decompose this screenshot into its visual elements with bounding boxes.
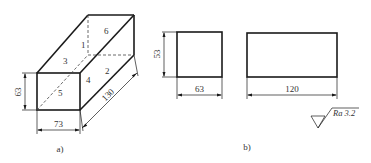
face-label-4: 4 [86,75,91,85]
figure-b-side-view [247,33,337,77]
dimension-length-b: 120 [247,77,337,99]
svg-text:130: 130 [100,86,117,103]
surface-roughness-icon: Ra 3.2 [311,108,359,128]
face-label-6: 6 [104,26,109,36]
roughness-label: Ra 3.2 [332,108,356,118]
dimension-height-b: 53 [152,32,177,77]
dimension-width-a: 73 [37,110,80,134]
svg-text:53: 53 [152,49,162,59]
face-label-5: 5 [58,88,63,98]
dimension-width-b: 63 [177,77,222,99]
figure-a-block: 1 2 3 4 5 6 [37,15,134,110]
caption-a: a) [57,144,64,154]
svg-text:120: 120 [285,84,299,94]
dimension-height-a: 63 [13,73,37,110]
face-label-2: 2 [105,66,110,76]
caption-b: b) [243,142,251,152]
figure-b-end-view [177,32,222,77]
svg-text:73: 73 [54,119,64,129]
face-label-3: 3 [63,56,68,66]
face-label-1: 1 [81,40,86,50]
svg-text:63: 63 [13,87,23,97]
svg-text:63: 63 [195,84,205,94]
drawing-canvas: 1 2 3 4 5 6 63 73 130 a) [0,0,371,163]
